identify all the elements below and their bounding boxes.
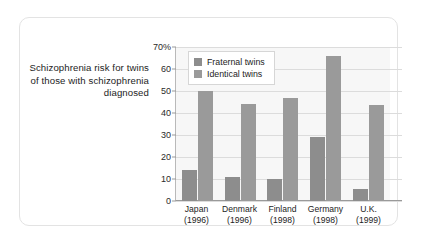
- legend-item-fraternal: Fraternal twins: [194, 56, 265, 68]
- x-label-country: Finland: [268, 204, 296, 214]
- bar-finland-identical[interactable]: [283, 98, 298, 201]
- x-axis-label: Finland(1998): [261, 204, 304, 225]
- legend-item-identical: Identical twins: [194, 68, 265, 80]
- bar-germany-fraternal[interactable]: [310, 137, 325, 201]
- bar-group: [304, 47, 347, 201]
- legend-label-fraternal: Fraternal twins: [207, 57, 265, 67]
- gridline: [176, 201, 402, 202]
- x-label-country: U.K.: [360, 204, 377, 214]
- y-tick-label: 40: [161, 108, 171, 118]
- x-axis-label: U.K.(1999): [347, 204, 390, 225]
- bar-denmark-identical[interactable]: [241, 104, 256, 201]
- x-label-year: (1998): [304, 215, 347, 226]
- bar-uk-fraternal[interactable]: [353, 189, 368, 201]
- y-tick-label: 30: [161, 130, 171, 140]
- x-axis-label: Denmark(1996): [218, 204, 261, 225]
- x-axis-label: Germany(1998): [304, 204, 347, 225]
- legend: Fraternal twins Identical twins: [188, 51, 275, 85]
- y-tick-label: 50: [161, 86, 171, 96]
- bar-uk-identical[interactable]: [369, 105, 384, 201]
- x-label-year: (1998): [261, 215, 304, 226]
- bar-finland-fraternal[interactable]: [267, 179, 282, 201]
- chart-card: Schizophrenia risk for twins of those wi…: [19, 17, 398, 226]
- y-tick-label: 10: [161, 174, 171, 184]
- x-label-country: Germany: [308, 204, 343, 214]
- x-label-year: (1996): [175, 215, 218, 226]
- legend-label-identical: Identical twins: [207, 69, 262, 79]
- bar-japan-fraternal[interactable]: [182, 170, 197, 201]
- x-axis-label: Japan(1996): [175, 204, 218, 225]
- x-axis-labels: Japan(1996)Denmark(1996)Finland(1998)Ger…: [175, 204, 390, 225]
- bar-germany-identical[interactable]: [326, 56, 341, 201]
- plot-canvas: 010203040506070% Fraternal twins Identic…: [175, 47, 390, 201]
- bar-denmark-fraternal[interactable]: [225, 177, 240, 201]
- plot-area: 010203040506070% Fraternal twins Identic…: [175, 47, 390, 201]
- x-label-country: Japan: [185, 204, 208, 214]
- legend-swatch-fraternal: [194, 58, 202, 66]
- x-label-year: (1999): [347, 215, 390, 226]
- y-tick-label: 20: [161, 152, 171, 162]
- legend-swatch-identical: [194, 70, 202, 78]
- chart-caption: Schizophrenia risk for twins of those wi…: [28, 62, 149, 100]
- x-label-year: (1996): [218, 215, 261, 226]
- bar-japan-identical[interactable]: [198, 91, 213, 201]
- y-tick-label: 0: [166, 196, 171, 206]
- bar-group: [347, 47, 390, 201]
- y-tick-label: 60: [161, 64, 171, 74]
- x-label-country: Denmark: [222, 204, 257, 214]
- y-tick-label: 70%: [153, 42, 171, 52]
